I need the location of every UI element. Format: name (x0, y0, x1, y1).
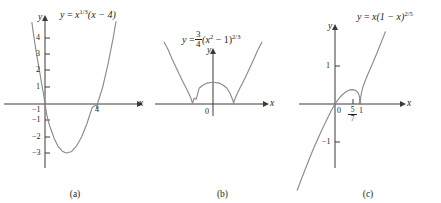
x-ticklabel-c-5-7-denominator: 7 (348, 115, 357, 123)
plot-a (0, 0, 150, 178)
curve-c-right (360, 32, 385, 104)
y-axis-arrow-a (42, 15, 48, 21)
x-ticklabel-b-0: 0 (205, 107, 209, 116)
y-ticklabel-c-neg1: −1 (322, 137, 331, 146)
plot-b (150, 0, 295, 178)
x-axis-label-c: x (407, 98, 411, 108)
panel-caption-b: (b) (150, 189, 295, 199)
x-ticklabel-a-neg1: −1 (32, 105, 41, 114)
y-axis-label-b: y (207, 45, 211, 55)
x-axis-arrow-b (263, 101, 269, 107)
y-ticklabel-a-neg2: −2 (32, 132, 41, 141)
y-axis-label-a: y (38, 12, 42, 22)
equation-label-c: y = x(1 − x)2/5 (357, 12, 413, 22)
y-axis-arrow-c (332, 24, 338, 30)
y-ticklabel-a-2: 2 (36, 65, 40, 74)
curve-a-left (32, 23, 98, 154)
plot-c-svg (295, 0, 441, 178)
eqn-a-equals: = (67, 9, 73, 20)
panel-b: y =34(x2 − 1)2/3 y x 0 (b) (150, 0, 295, 203)
x-axis-label-b: x (270, 98, 274, 108)
eqn-a-tail: (x − 4) (88, 9, 116, 20)
plot-b-svg (150, 0, 295, 178)
y-ticklabel-c-1: 1 (326, 61, 330, 70)
y-ticklabel-a-1: 1 (36, 82, 40, 91)
y-axis-label-c: y (328, 21, 332, 31)
y-ticklabel-a-neg3: −3 (32, 148, 41, 157)
eqn-b-equals: = (189, 34, 195, 45)
x-ticklabel-c-5-7: 5 7 (348, 106, 357, 122)
y-ticklabel-a-4: 4 (36, 33, 40, 42)
eqn-b-lhs: y (182, 34, 186, 45)
panel-c: y = x(1 − x)2/5 y x 1 −1 0 5 7 1 (c) (295, 0, 441, 203)
x-axis-label-a: x (139, 98, 143, 108)
eqn-c-exponent: 2/5 (404, 10, 412, 17)
eqn-a-lhs: y (60, 9, 64, 20)
eqn-c-lhs: y (357, 11, 361, 22)
plot-a-svg (0, 0, 150, 178)
eqn-b-fraction: 34 (195, 30, 202, 49)
curve-a-right (97, 22, 116, 105)
x-axis-arrow-c (400, 101, 406, 107)
eqn-a-exponent: 1/3 (80, 8, 88, 15)
panel-a: y = x1/3(x − 4) y x 4 3 2 1 −1 −2 −3 −1 … (0, 0, 150, 203)
panel-caption-c: (c) (295, 189, 441, 199)
y-ticklabel-a-neg1: −1 (32, 115, 41, 124)
eqn-b-frac-denominator: 4 (195, 40, 202, 49)
x-ticklabel-a-4: 4 (95, 105, 99, 114)
y-ticklabel-a-3: 3 (36, 49, 40, 58)
plot-c (295, 0, 441, 178)
eqn-b-exponent: 2/3 (232, 33, 240, 40)
x-ticklabel-c-1: 1 (359, 106, 363, 115)
eqn-b-base: (x (202, 34, 210, 45)
panel-caption-a: (a) (0, 189, 150, 199)
x-ticklabel-c-0: 0 (337, 106, 341, 115)
eqn-b-mid: − 1) (213, 34, 232, 45)
figure-three-curve-plots: y = x1/3(x − 4) y x 4 3 2 1 −1 −2 −3 −1 … (0, 0, 441, 203)
eqn-c-base: x(1 − x) (372, 11, 404, 22)
eqn-c-equals: = (364, 11, 370, 22)
equation-label-a: y = x1/3(x − 4) (60, 10, 116, 20)
